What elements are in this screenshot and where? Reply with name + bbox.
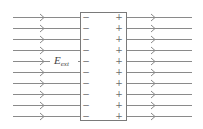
negative-charge: − [82,12,90,22]
outgoing-field-lines [127,14,192,120]
positive-charge: + [115,34,123,44]
negative-charge: − [82,56,90,66]
negative-charge: − [82,89,90,99]
positive-charge: + [115,12,123,22]
negative-charge: − [82,34,90,44]
positive-charge: + [115,23,123,33]
positive-charge: + [115,100,123,110]
positive-charge: + [115,111,123,121]
negative-charge: − [82,23,90,33]
negative-charge: − [82,67,90,77]
negative-charge: − [82,100,90,110]
positive-charge: + [115,56,123,66]
negative-charge: − [82,111,90,121]
positive-charge: + [115,45,123,55]
negative-charge: − [82,45,90,55]
positive-charge: + [115,89,123,99]
positive-charge: + [115,67,123,77]
field-diagram: −+−+−+−+−+−+−+−+−+−+ Eext [0,0,203,129]
negative-charge: − [82,78,90,88]
positive-charge: + [115,78,123,88]
